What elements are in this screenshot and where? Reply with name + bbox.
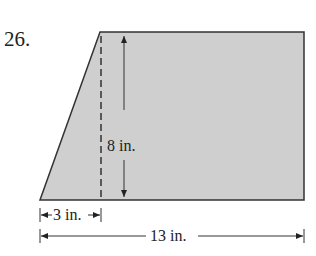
base-label: 13 in.	[150, 227, 186, 244]
trapezoid-shape	[40, 32, 304, 200]
trapezoid-figure: 8 in. 3 in. 13 in.	[0, 0, 316, 256]
height-label: 8 in.	[107, 137, 135, 154]
offset-label: 3 in.	[53, 206, 81, 223]
